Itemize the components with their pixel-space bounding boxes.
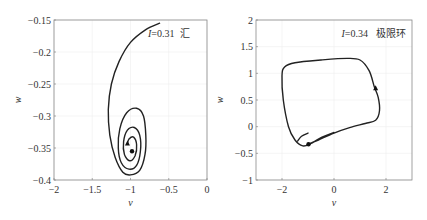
- x-tick-label: −1.5: [83, 184, 101, 195]
- start-point: [125, 141, 130, 146]
- x-tick-label: −2: [277, 184, 288, 195]
- y-tick-label: −0.4: [33, 175, 51, 186]
- x-axis-label: v: [128, 197, 133, 208]
- annotation: I=0.31汇: [147, 27, 190, 39]
- y-tick-label: −0.3: [33, 111, 51, 122]
- y-tick-label: −0.15: [28, 15, 51, 26]
- annotation-label: 汇: [180, 27, 190, 39]
- y-tick-label: 0: [248, 121, 253, 132]
- y-axis-label: w: [214, 96, 225, 103]
- x-tick-label: 0: [205, 184, 210, 195]
- x-tick-label: −2: [49, 184, 60, 195]
- annotation-value: =0.31: [151, 28, 174, 39]
- plot-sink: −2−1.5−1−0.50−0.4−0.35−0.3−0.25−0.2−0.15…: [12, 15, 210, 209]
- y-tick-label: −0.2: [33, 47, 51, 58]
- y-tick-label: −0.25: [28, 79, 51, 90]
- y-tick-label: −0.35: [28, 143, 51, 154]
- trajectory-limit-cycle: [282, 58, 380, 146]
- equilibrium-point: [130, 149, 134, 153]
- y-tick-label: 2: [248, 15, 253, 26]
- y-tick-label: −1: [242, 175, 253, 186]
- x-axis-label: v: [332, 197, 337, 208]
- x-tick-label: −1: [125, 184, 136, 195]
- annotation-value: =0.34: [345, 28, 368, 39]
- start-point: [306, 142, 310, 146]
- annotation-label: 极限环: [376, 27, 406, 39]
- plot-limit-cycle: −202−1−0.500.511.52 v w I=0.34极限环: [214, 15, 412, 209]
- figure: −2−1.5−1−0.50−0.4−0.35−0.3−0.25−0.2−0.15…: [0, 0, 427, 220]
- y-tick-label: −0.5: [235, 148, 253, 159]
- y-tick-label: 0.5: [241, 95, 254, 106]
- initial-transient: [298, 133, 308, 141]
- x-tick-label: 2: [384, 184, 389, 195]
- annotation: I=0.34极限环: [341, 27, 406, 39]
- x-tick-label: −0.5: [160, 184, 178, 195]
- y-axis-label: w: [12, 96, 23, 103]
- y-tick-label: 1.5: [241, 41, 254, 52]
- x-tick-label: 0: [332, 184, 337, 195]
- y-tick-label: 1: [248, 68, 253, 79]
